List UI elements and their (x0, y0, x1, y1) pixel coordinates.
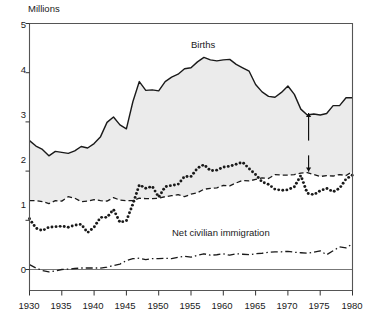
chart-figure: Millions 5 4 3 2 1 0 1930 1935 1940 1945… (0, 0, 372, 323)
chart-canvas (0, 0, 372, 323)
series-net-civilian-immigration (30, 244, 353, 272)
